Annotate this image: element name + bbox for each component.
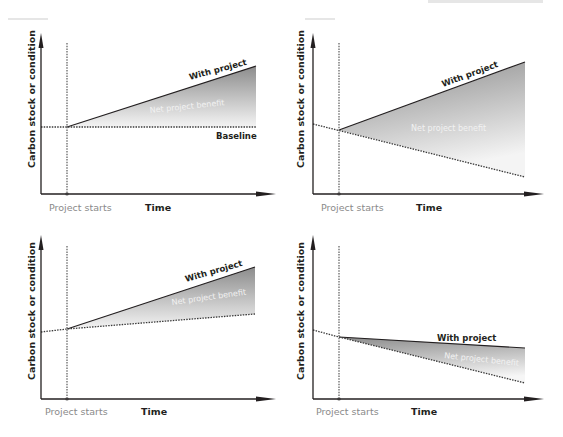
project-starts-label: Project starts [316, 406, 379, 417]
x-axis-arrow-icon [524, 192, 544, 197]
baseline-label: Baseline [216, 131, 257, 141]
with-project-label: With project [437, 333, 496, 343]
carbon-benefit-diagram: Carbon stock or condition Project starts… [0, 0, 563, 437]
time-label: Time [411, 406, 437, 417]
panel-bottom-right: Carbon stock or condition Project starts… [295, 235, 544, 417]
time-label: Time [145, 202, 171, 213]
y-axis-label: Carbon stock or condition [26, 242, 37, 380]
net-benefit-label: Net project benefit [411, 124, 486, 133]
y-axis-arrow-icon [311, 235, 316, 250]
x-axis-arrow-icon [256, 192, 276, 197]
project-starts-label: Project starts [321, 202, 384, 213]
y-axis-arrow-icon [311, 33, 316, 48]
x-axis-arrow-icon [256, 397, 276, 402]
panel-top-right: Carbon stock or condition Project starts… [295, 30, 544, 213]
panel-bottom-left: Carbon stock or condition Project starts… [26, 235, 276, 417]
y-axis-label: Carbon stock or condition [295, 242, 306, 380]
y-axis-arrow-icon [39, 33, 44, 48]
x-axis-arrow-icon [524, 397, 544, 402]
panel-top-left: Carbon stock or condition Project starts… [26, 30, 276, 213]
time-label: Time [416, 202, 442, 213]
faint-header-mark [8, 18, 48, 20]
time-label: Time [141, 406, 167, 417]
faint-header-mark [428, 0, 543, 3]
y-axis-label: Carbon stock or condition [26, 30, 37, 168]
faint-header-mark [305, 18, 335, 20]
project-starts-label: Project starts [49, 202, 112, 213]
y-axis-arrow-icon [39, 235, 44, 250]
y-axis-label: Carbon stock or condition [295, 30, 306, 168]
project-starts-label: Project starts [45, 406, 108, 417]
